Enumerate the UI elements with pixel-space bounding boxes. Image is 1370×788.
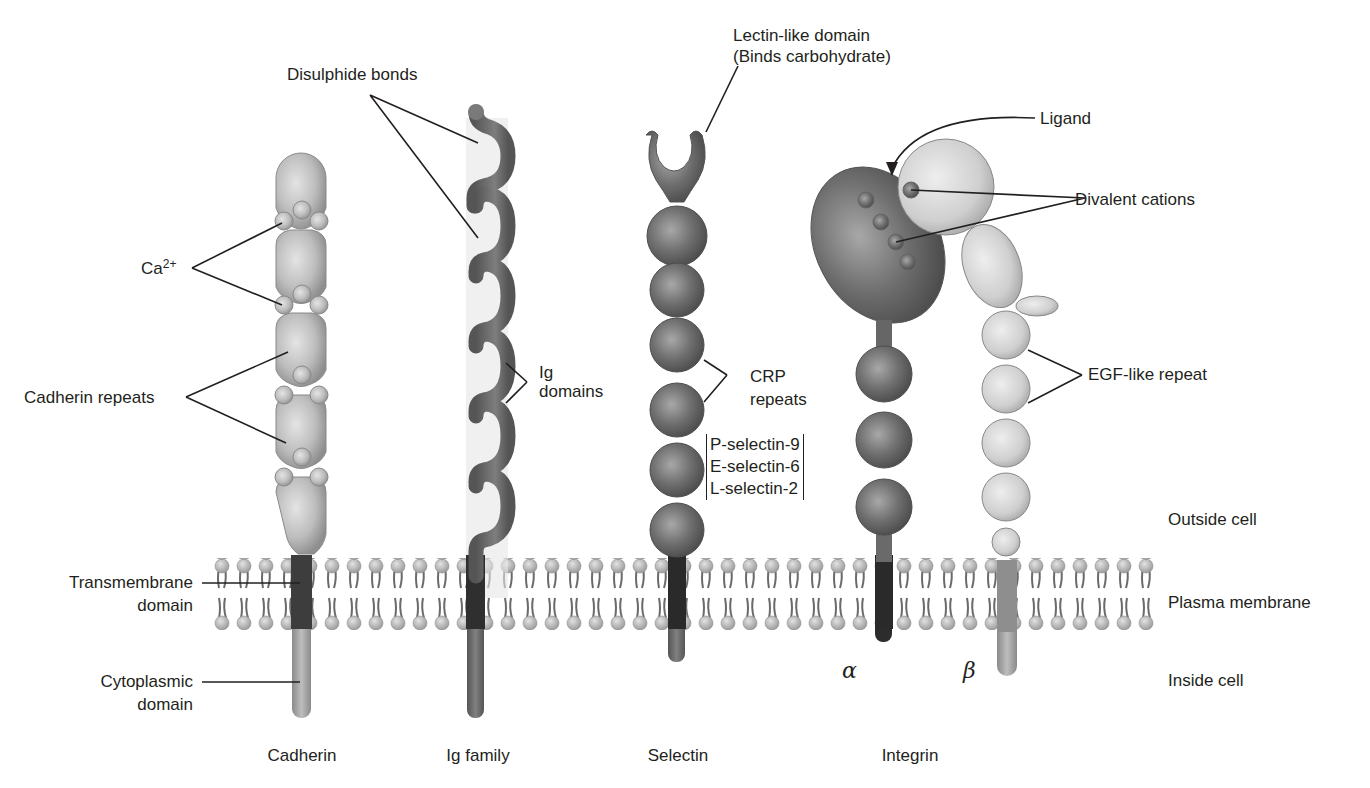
cell-adhesion-molecules-diagram: Disulphide bonds Lectin-like domain (Bin…: [0, 0, 1370, 788]
label-ligand: Ligand: [1040, 108, 1091, 129]
label-calcium-base: Ca: [141, 259, 163, 278]
label-lectin-like-domain: Lectin-like domain (Binds carbohydrate): [733, 25, 891, 67]
diagram-canvas: [0, 0, 1370, 788]
label-transmembrane-domain: Transmembrane domain: [16, 571, 193, 617]
label-outside-cell: Outside cell: [1168, 509, 1257, 530]
egf-like-repeats: [982, 311, 1030, 521]
label-crp-line2: repeats: [750, 388, 807, 411]
selectin-variants-list: P-selectin-9 E-selectin-6 L-selectin-2: [706, 434, 804, 500]
cadherin-transmembrane-domain: [291, 555, 312, 629]
label-lectin-line2: (Binds carbohydrate): [733, 46, 891, 67]
integrin-alpha-transmembrane: [875, 555, 893, 629]
selectin-variant-l: L-selectin-2: [710, 478, 800, 500]
label-ig-line1: Ig: [539, 363, 603, 382]
crp-repeats: [647, 206, 707, 557]
label-calcium-charge: 2+: [163, 257, 177, 271]
label-selectin: Selectin: [616, 745, 740, 766]
label-cadherin-repeats: Cadherin repeats: [24, 387, 154, 408]
selectin-transmembrane-domain: [668, 555, 686, 629]
label-ig-family: Ig family: [416, 745, 540, 766]
lectin-like-domain: [646, 131, 705, 202]
label-cytoplasmic-domain: Cytoplasmic domain: [16, 670, 193, 716]
integrin-alpha-beads: [856, 346, 912, 535]
label-cytoplasmic-line1: Cytoplasmic: [16, 670, 193, 693]
label-crp-repeats: CRP repeats: [750, 365, 807, 411]
selectin-variant-e: E-selectin-6: [710, 456, 800, 478]
label-ig-domains: Ig domains: [539, 363, 603, 401]
label-lectin-line1: Lectin-like domain: [733, 25, 891, 46]
label-beta-subunit: β: [963, 660, 976, 681]
label-transmembrane-line1: Transmembrane: [16, 571, 193, 594]
label-ig-line2: domains: [539, 382, 603, 401]
integrin-beta-transmembrane: [997, 560, 1017, 632]
label-transmembrane-line2: domain: [16, 594, 193, 617]
selectin-variant-p: P-selectin-9: [710, 434, 800, 456]
label-cytoplasmic-line2: domain: [16, 693, 193, 716]
label-integrin: Integrin: [848, 745, 972, 766]
cadherin-molecule: [275, 153, 328, 718]
label-crp-line1: CRP: [750, 365, 807, 388]
label-plasma-membrane: Plasma membrane: [1168, 592, 1311, 613]
label-cadherin: Cadherin: [240, 745, 364, 766]
label-divalent-cations: Divalent cations: [1075, 189, 1195, 210]
label-disulphide-bonds: Disulphide bonds: [287, 64, 417, 85]
label-inside-cell: Inside cell: [1168, 670, 1244, 691]
label-alpha-subunit: α: [842, 660, 857, 681]
label-egf-like-repeat: EGF-like repeat: [1088, 364, 1207, 385]
label-calcium: Ca2+: [141, 258, 176, 279]
